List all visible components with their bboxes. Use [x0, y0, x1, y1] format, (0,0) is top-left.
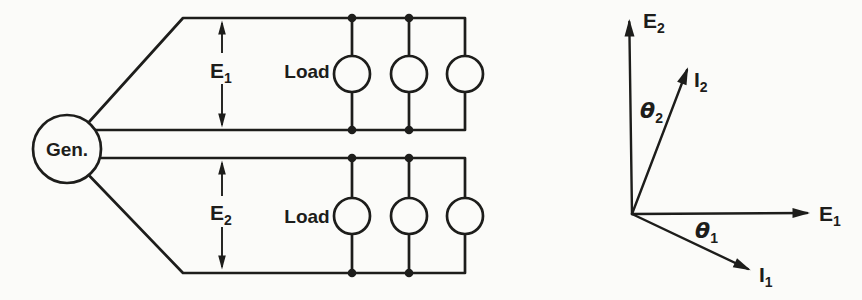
theta2-angle-label: θ2 [640, 98, 663, 126]
junction-dot [405, 126, 414, 135]
e1-phasor-label: E1 [819, 202, 841, 229]
load-circle [391, 198, 427, 234]
circuit-diagram: Gen. E1 E2 Load Load [33, 14, 483, 278]
junction-dot [348, 14, 357, 23]
junction-dot [348, 269, 357, 278]
load-circle [391, 56, 427, 92]
generator-label: Gen. [46, 139, 88, 160]
load-circle [334, 198, 370, 234]
theta1-angle-label: θ1 [695, 218, 718, 246]
load-circle [334, 56, 370, 92]
e2-phasor-label: E2 [643, 9, 665, 36]
junction-dot [348, 154, 357, 163]
junction-dot [405, 269, 414, 278]
load-circle [447, 56, 483, 92]
i2-phasor-label: I2 [694, 68, 708, 95]
load-circle [447, 198, 483, 234]
junction-dot [348, 126, 357, 135]
i1-phasor-vector [632, 214, 748, 269]
i1-phasor-label: I1 [759, 263, 773, 290]
top-load-label: Load [284, 61, 329, 82]
figure-two-feeder-circuit-with-phasor-diagram: Gen. E1 E2 Load Load [0, 0, 862, 300]
phasor-diagram: E2 I2 θ2 E1 θ1 I1 [629, 9, 841, 290]
bottom-load-label: Load [284, 206, 329, 227]
e1-phasor-vector [632, 213, 807, 214]
e2-phasor-vector [629, 22, 632, 214]
junction-dot [405, 14, 414, 23]
junction-dot [405, 154, 414, 163]
diagram-canvas: Gen. E1 E2 Load Load [0, 0, 862, 300]
i2-phasor-vector [632, 70, 687, 214]
